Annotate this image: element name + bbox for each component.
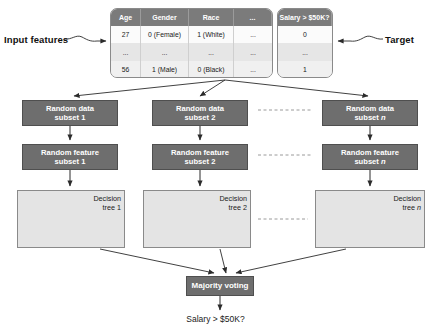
column-header-age: Age — [111, 9, 141, 26]
column-header-more: ... — [234, 9, 272, 26]
decision-tree-1-label: Decisiontree 1 — [93, 194, 121, 213]
column-header-race: Race — [189, 9, 234, 26]
feature-to-tree-arrows — [70, 170, 370, 186]
decision-tree-1-panel: Decisiontree 1 — [17, 190, 125, 248]
ds1-line1: Random data — [46, 104, 94, 113]
final-output-label: Salary > $50K? — [0, 314, 431, 324]
column-header-gender: Gender — [141, 9, 189, 26]
cell-target: 0 — [278, 26, 332, 43]
table-row: 56 1 (Male) 0 (Black) ... — [111, 61, 272, 78]
cell-gender: 0 (Female) — [141, 26, 189, 43]
dsn-index: n — [381, 113, 386, 122]
decision-tree-n-panel: Decisiontree n — [315, 190, 425, 248]
random-feature-subset-1-box: Random featuresubset 1 — [22, 144, 118, 170]
column-header-target: Salary > $50K? — [278, 9, 332, 26]
table-row: ... — [278, 43, 332, 61]
ds1-line2: subset 1 — [55, 113, 86, 122]
input-features-table: Age Gender Race ... 27 0 (Female) 1 (Whi… — [110, 8, 273, 78]
fs1-line1: Random feature — [41, 148, 99, 157]
cell-age: 27 — [111, 26, 141, 43]
decision-tree-2-label: Decisiontree 2 — [219, 194, 247, 213]
dsn-line2: subset — [354, 113, 381, 122]
cell-target: ... — [278, 43, 332, 61]
input-features-pointer — [64, 36, 106, 41]
majority-voting-box: Majority voting — [186, 276, 254, 296]
dataset-to-subsets-arrows — [74, 80, 368, 96]
treen-index: n — [417, 203, 421, 212]
fsn-line2: subset — [354, 157, 381, 166]
cell-gender: 1 (Male) — [141, 61, 189, 78]
dsn-line1: Random data — [346, 104, 394, 113]
treen-line1: Decision — [393, 194, 421, 203]
target-pointer — [338, 36, 383, 41]
cell-age: ... — [111, 43, 141, 61]
ds2-line2: subset 2 — [185, 113, 216, 122]
table-row: 0 — [278, 26, 332, 43]
ellipsis-connectors — [258, 110, 312, 219]
tree1-line2: tree 1 — [103, 203, 121, 212]
cell-race: 1 (White) — [189, 26, 234, 43]
random-data-subset-2-box: Random datasubset 2 — [152, 100, 248, 126]
cell-more: ... — [234, 43, 272, 61]
random-data-subset-1-box: Random datasubset 1 — [22, 100, 118, 126]
cell-more: ... — [234, 26, 272, 43]
cell-race: ... — [189, 43, 234, 61]
tree2-line2: tree 2 — [229, 203, 247, 212]
fs1-line2: subset 1 — [55, 157, 86, 166]
trees-to-voting-arrows — [100, 249, 346, 273]
input-features-label: Input features — [4, 34, 68, 45]
fs2-line1: Random feature — [171, 148, 229, 157]
cell-more: ... — [234, 61, 272, 78]
random-feature-subset-n-box: Random featuresubset n — [322, 144, 418, 170]
tree1-line1: Decision — [93, 194, 121, 203]
table-header-row: Age Gender Race ... — [111, 9, 272, 26]
decision-tree-2-panel: Decisiontree 2 — [143, 190, 251, 248]
decision-tree-n-label: Decisiontree n — [393, 194, 421, 213]
fsn-line1: Random feature — [341, 148, 399, 157]
random-feature-subset-2-box: Random featuresubset 2 — [152, 144, 248, 170]
cell-race: 0 (Black) — [189, 61, 234, 78]
fsn-index: n — [381, 157, 386, 166]
table-header-row: Salary > $50K? — [278, 9, 332, 26]
random-forest-diagram: Input features Target Age Gender Race ..… — [0, 0, 431, 335]
cell-target: 1 — [278, 61, 332, 78]
ds2-line1: Random data — [176, 104, 224, 113]
subset-to-feature-arrows — [70, 126, 370, 140]
cell-age: 56 — [111, 61, 141, 78]
fs2-line2: subset 2 — [185, 157, 216, 166]
cell-gender: ... — [141, 43, 189, 61]
table-row: 27 0 (Female) 1 (White) ... — [111, 26, 272, 43]
tree2-line1: Decision — [219, 194, 247, 203]
target-table: Salary > $50K? 0 ... 1 — [277, 8, 333, 78]
random-data-subset-n-box: Random datasubset n — [322, 100, 418, 126]
table-row: ... ... ... ... — [111, 43, 272, 61]
treen-line2: tree — [403, 203, 417, 212]
target-label: Target — [385, 34, 414, 45]
table-row: 1 — [278, 61, 332, 78]
